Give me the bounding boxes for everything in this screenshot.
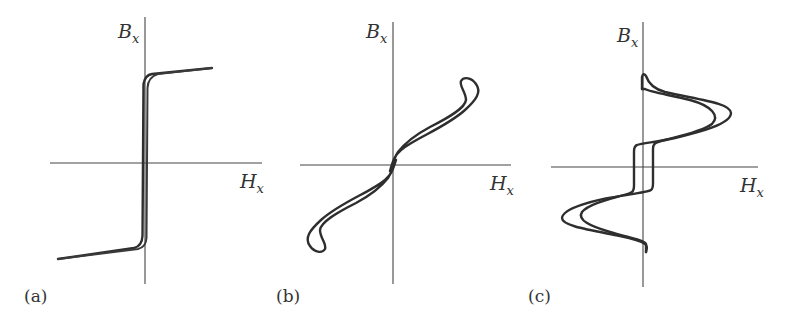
panel-c-y-label: Bx xyxy=(616,24,639,50)
panel-b: Bx Hx (b) xyxy=(276,20,515,306)
panel-a-label: (a) xyxy=(24,286,47,306)
panel-c-label: (c) xyxy=(528,286,551,306)
panel-b-loop-lower xyxy=(308,160,396,252)
panel-a: Bx Hx (a) xyxy=(24,17,265,306)
panel-c-loop-descending xyxy=(581,74,731,252)
panel-b-loop-outer xyxy=(390,78,478,171)
panel-a-y-label: Bx xyxy=(117,20,140,46)
hysteresis-figure: Bx Hx (a) Bx Hx (b) Bx Hx (c) xyxy=(0,0,805,324)
panel-b-label: (b) xyxy=(276,286,300,306)
panel-b-y-label: Bx xyxy=(365,20,388,46)
panel-c-loop-ascending xyxy=(562,89,715,252)
panel-b-x-label: Hx xyxy=(489,172,515,198)
panel-c: Bx Hx (c) xyxy=(528,22,765,306)
panel-a-x-label: Hx xyxy=(239,170,265,196)
panel-c-x-label: Hx xyxy=(739,174,765,200)
